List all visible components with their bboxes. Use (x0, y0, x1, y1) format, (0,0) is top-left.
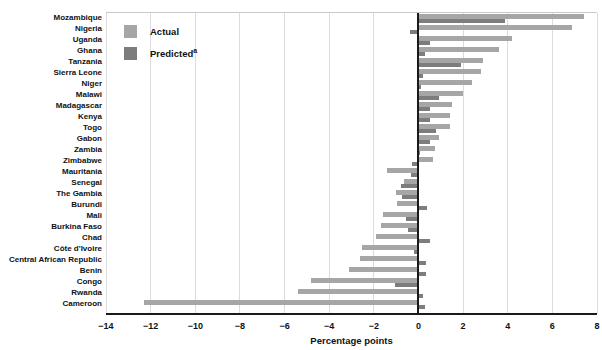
bar-actual-burundi (397, 201, 418, 206)
bar-predicted-tanzania (418, 63, 460, 68)
bar-predicted-malawi (418, 96, 438, 101)
bar-predicted-cameroon (418, 305, 425, 310)
bar-predicted-senegal (401, 184, 419, 189)
bar-actual-zambia (418, 146, 435, 151)
y-axis-label-gabon: Gabon (0, 134, 102, 143)
y-axis-label-niger: Niger (0, 79, 102, 88)
bar-predicted-uganda (418, 41, 429, 46)
legend-swatch-predicted (124, 47, 137, 60)
legend-swatch-actual (124, 25, 137, 38)
bar-predicted-burundi (418, 206, 427, 211)
y-axis-label-chad: Chad (0, 233, 102, 242)
bar-predicted-mozambique (418, 19, 505, 24)
y-axis-label-burundi: Burundi (0, 200, 102, 209)
bar-actual-niger (418, 80, 472, 85)
bar-predicted-kenya (418, 118, 429, 123)
bar-actual-benin (349, 267, 418, 272)
y-axis-label-kenya: Kenya (0, 112, 102, 121)
y-axis-label-congo: Congo (0, 277, 102, 286)
x-tick-label-4: 4 (505, 321, 510, 331)
y-axis-label-tanzania: Tanzania (0, 57, 102, 66)
x-axis-title: Percentage points (106, 335, 597, 346)
y-axis-label-mauritania: Mauritania (0, 167, 102, 176)
y-axis-label-mozambique: Mozambique (0, 13, 102, 22)
bar-actual-c-te-d-ivoire (362, 245, 419, 250)
zero-axis-line (417, 13, 419, 314)
bar-predicted-congo (395, 283, 418, 288)
y-axis-label-uganda: Uganda (0, 35, 102, 44)
x-tick-label-6: 6 (550, 321, 555, 331)
bar-actual-chad (376, 234, 418, 239)
y-axis-label-zambia: Zambia (0, 145, 102, 154)
bar-predicted-benin (418, 272, 426, 277)
x-tick-label--10: −10 (188, 321, 203, 331)
y-axis-label-madagascar: Madagascar (0, 101, 102, 110)
x-tick-label-0: 0 (416, 321, 421, 331)
gridline--14 (106, 13, 107, 314)
y-axis-label-zimbabwe: Zimbabwe (0, 156, 102, 165)
y-axis-label-burkina-faso: Burkina Faso (0, 222, 102, 231)
bar-actual-zimbabwe (418, 157, 433, 162)
legend-label-actual: Actual (150, 26, 179, 37)
y-axis-label-mali: Mali (0, 211, 102, 220)
bar-predicted-ghana (418, 52, 425, 57)
bar-predicted-chad (418, 239, 429, 244)
bar-actual-central-african-republic (360, 256, 418, 261)
legend-row-predicted: Predicteda (124, 46, 197, 60)
y-axis-label-cameroon: Cameroon (0, 299, 102, 308)
bar-predicted-madagascar (418, 107, 429, 112)
y-axis-label-malawi: Malawi (0, 90, 102, 99)
bar-predicted-gabon (418, 140, 429, 145)
bar-predicted-the-gambia (402, 195, 419, 200)
bar-actual-rwanda (298, 289, 419, 294)
legend: Actual Predicteda (124, 24, 197, 68)
bar-actual-ghana (418, 47, 498, 52)
y-axis-label-central-african-republic: Central African Republic (0, 255, 102, 264)
x-tick-label-8: 8 (594, 321, 599, 331)
bar-actual-cameroon (144, 300, 419, 305)
gridline-8 (597, 13, 598, 314)
legend-label-predicted: Predicteda (150, 47, 197, 59)
x-axis-line (106, 313, 597, 315)
legend-row-actual: Actual (124, 24, 197, 38)
gridline--4 (329, 13, 330, 314)
y-axis-label-benin: Benin (0, 266, 102, 275)
y-axis-label-ghana: Ghana (0, 46, 102, 55)
y-axis-label-togo: Togo (0, 123, 102, 132)
gridline--6 (284, 13, 285, 314)
x-tick-label--14: −14 (98, 321, 113, 331)
x-tick-label--8: −8 (235, 321, 245, 331)
bar-actual-nigeria (418, 25, 572, 30)
gridline--8 (239, 13, 240, 314)
x-tick-label--6: −6 (279, 321, 289, 331)
x-tick-label--2: −2 (369, 321, 379, 331)
y-axis-label-senegal: Senegal (0, 178, 102, 187)
bar-predicted-togo (418, 129, 436, 134)
gridline-6 (552, 13, 553, 314)
y-axis-label-c-te-d-ivoire: Côte d'Ivoire (0, 244, 102, 253)
y-axis-label-the-gambia: The Gambia (0, 189, 102, 198)
bar-actual-uganda (418, 36, 512, 41)
y-axis-label-nigeria: Nigeria (0, 24, 102, 33)
y-axis-label-sierra-leone: Sierra Leone (0, 68, 102, 77)
gridline-4 (507, 13, 508, 314)
x-tick-label--4: −4 (324, 321, 334, 331)
bar-actual-sierra-leone (418, 69, 480, 74)
x-tick-label--12: −12 (143, 321, 158, 331)
bar-chart-figure: MozambiqueNigeriaUgandaGhanaTanzaniaSier… (0, 0, 602, 350)
y-axis-label-rwanda: Rwanda (0, 288, 102, 297)
x-tick-label-2: 2 (461, 321, 466, 331)
legend-footnote-marker: a (193, 47, 197, 54)
bar-predicted-central-african-republic (418, 261, 426, 266)
